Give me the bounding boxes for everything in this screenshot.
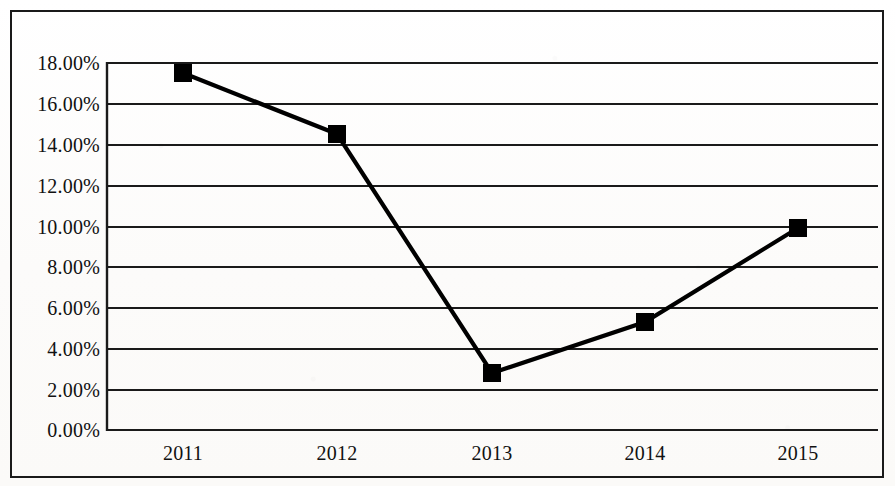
data-point-2013 <box>483 364 501 382</box>
data-point-2012 <box>328 125 346 143</box>
data-point-2011 <box>174 64 192 82</box>
data-point-2014 <box>636 313 654 331</box>
x-axis-tick-label: 2011 <box>123 442 243 465</box>
x-axis-tick-label: 2013 <box>432 442 552 465</box>
series-markers <box>174 64 807 382</box>
x-axis-tick-label: 2014 <box>585 442 705 465</box>
plot-svg <box>0 0 895 486</box>
series-line <box>183 73 798 373</box>
chart-screenshot: 18.00% 16.00% 14.00% 12.00% 10.00% 8.00%… <box>0 0 895 486</box>
data-point-2015 <box>789 219 807 237</box>
line-chart: 18.00% 16.00% 14.00% 12.00% 10.00% 8.00%… <box>0 0 895 486</box>
x-axis-tick-label: 2015 <box>738 442 858 465</box>
x-axis-tick-label: 2012 <box>277 442 397 465</box>
